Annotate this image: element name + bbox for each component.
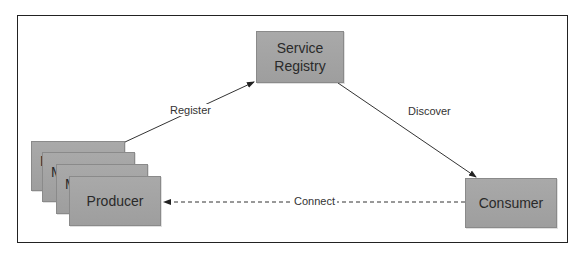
- service-registry-node[interactable]: Service Registry: [256, 31, 344, 83]
- consumer-label: Consumer: [479, 194, 544, 212]
- consumer-node[interactable]: Consumer: [465, 178, 557, 228]
- producer-label: Producer: [87, 192, 144, 210]
- register-label: Register: [168, 104, 213, 116]
- connect-label: Connect: [292, 195, 337, 207]
- service-registry-label-line2: Registry: [274, 57, 325, 75]
- discover-label: Discover: [406, 105, 453, 117]
- service-registry-label-line1: Service: [277, 39, 324, 57]
- producer-node[interactable]: Producer: [69, 176, 161, 226]
